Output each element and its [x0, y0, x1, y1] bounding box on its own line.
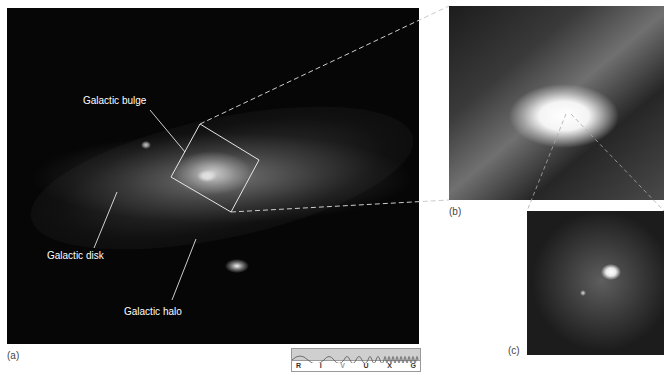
- galaxy-image-panel-a: [7, 8, 419, 344]
- caption-panel-a: (a): [7, 350, 19, 361]
- caption-panel-b: (b): [449, 206, 461, 217]
- spectrum-band-indicator: R I V U X G: [291, 348, 421, 372]
- label-galactic-disk: Galactic disk: [47, 250, 104, 261]
- band-r: R: [296, 361, 301, 371]
- band-x: X: [387, 361, 392, 371]
- label-galactic-halo: Galactic halo: [124, 306, 182, 317]
- wave-icon: [292, 349, 420, 361]
- galaxy-nucleus-image-panel-c: [527, 211, 664, 355]
- label-galactic-bulge: Galactic bulge: [83, 95, 146, 106]
- galaxy-core-image-panel-b: [449, 6, 664, 200]
- band-i: I: [320, 361, 322, 371]
- band-g: G: [411, 361, 416, 371]
- starfield: [7, 8, 419, 344]
- caption-panel-c: (c): [508, 345, 520, 356]
- band-u: U: [364, 361, 369, 371]
- band-v: V: [340, 361, 345, 371]
